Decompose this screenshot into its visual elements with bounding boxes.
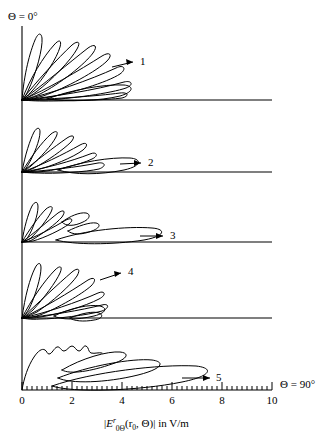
- panel-2-curve: [22, 128, 141, 174]
- svg-text:|Er0Θ(r0, Θ)| in V/m: |Er0Θ(r0, Θ)| in V/m: [104, 416, 189, 433]
- panel-5-curve: [22, 346, 210, 390]
- panel-4-curve: [22, 264, 121, 322]
- x-axis-tick-label: 2: [69, 394, 75, 406]
- curve-label-2: 2: [148, 156, 154, 168]
- figure-canvas: 1 2 3: [0, 0, 332, 444]
- curve-label-1: 1: [140, 55, 146, 67]
- radiation-pattern-figure: 1 2 3: [0, 0, 332, 444]
- curve-label-5: 5: [216, 371, 222, 383]
- curve-label-3: 3: [170, 229, 176, 241]
- panel-1-curve: [22, 34, 133, 101]
- x-axis-tick-label: 4: [119, 394, 125, 406]
- panel-3-curve: [22, 202, 163, 243]
- x-axis-title: |Er0Θ(r0, Θ)| in V/m: [104, 416, 189, 433]
- x-axis-tick-label: 8: [219, 394, 225, 406]
- curve-label-4: 4: [128, 265, 134, 277]
- theta-ninety-label: Θ = 90°: [280, 378, 315, 390]
- x-axis-tick-label: 6: [169, 394, 175, 406]
- x-axis-tick-labels: 0246810: [19, 394, 278, 406]
- axis-title-units: in V/m: [155, 417, 189, 429]
- axis-title-args-rest: , Θ): [136, 417, 153, 430]
- x-axis-tick-label: 10: [267, 394, 279, 406]
- theta-zero-label: Θ = 0°: [8, 10, 38, 22]
- x-axis-tick-label: 0: [19, 394, 25, 406]
